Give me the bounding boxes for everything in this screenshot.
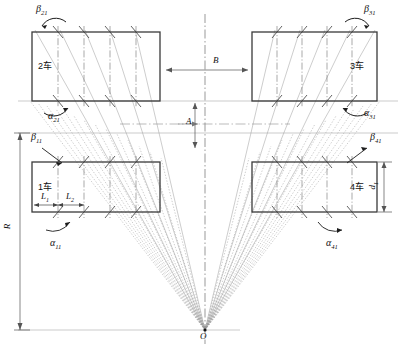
- angle-label-alpha31: α31: [364, 108, 376, 121]
- diagram-svg: [0, 0, 401, 348]
- car3-beta-arc: [345, 18, 369, 26]
- dimension-label-L2: L2: [66, 192, 74, 204]
- radial-fan-left-solid: [35, 30, 205, 330]
- angle-label-beta31: β31: [364, 4, 376, 17]
- car2-tick-marks: [53, 26, 141, 107]
- radial-fan-right: [205, 101, 380, 330]
- d1-symbol: d: [367, 185, 377, 190]
- dimension-R: [14, 133, 30, 330]
- dimension-label-A: A: [186, 117, 192, 126]
- origin-label: O: [200, 332, 207, 341]
- car3-label: 3车: [350, 62, 364, 71]
- alpha11-subscript: 11: [55, 243, 61, 250]
- d1-subscript: 1: [373, 182, 379, 185]
- dimension-label-L1: L1: [41, 192, 49, 204]
- angle-label-alpha21: α21: [48, 111, 60, 124]
- alpha21-subscript: 21: [53, 116, 60, 123]
- car1-axles: [58, 156, 136, 218]
- dimension-label-R: R: [3, 224, 12, 230]
- car1-beta-arc: [42, 148, 62, 163]
- car2-axles: [58, 26, 136, 107]
- angle-label-beta41: β41: [370, 132, 382, 145]
- car2-beta-arc: [42, 18, 66, 26]
- radial-fan-left: [30, 101, 205, 330]
- car2-label: 2车: [38, 62, 52, 71]
- L2-subscript: 2: [71, 197, 74, 203]
- car1-tick-marks: [53, 156, 141, 218]
- dimension-label-B: B: [213, 56, 219, 65]
- L1-subscript: 1: [46, 197, 49, 203]
- car3-tick-marks: [272, 26, 357, 107]
- angle-label-beta11: β11: [31, 132, 42, 145]
- angle-label-alpha41: α41: [326, 238, 338, 251]
- car4-label: 4车: [350, 183, 364, 192]
- beta41-subscript: 41: [375, 137, 382, 144]
- dimension-B: [166, 68, 248, 73]
- dimension-d1: [378, 162, 392, 212]
- beta31-subscript: 31: [369, 9, 376, 16]
- figure-canvas: 2车 3车 1车 4车 β21 α21 β31 α31 β11 α11 β41 …: [0, 0, 401, 348]
- alpha31-subscript: 31: [369, 113, 376, 120]
- beta21-subscript: 21: [41, 9, 48, 16]
- radial-fan-right-solid: [205, 30, 375, 330]
- angle-label-alpha11: α11: [50, 238, 61, 251]
- beta11-subscript: 11: [36, 137, 42, 144]
- dimension-label-d1: d1: [368, 182, 380, 189]
- alpha41-subscript: 41: [331, 243, 338, 250]
- angle-label-beta21: β21: [36, 4, 48, 17]
- car1-alpha-arrow: [65, 222, 70, 227]
